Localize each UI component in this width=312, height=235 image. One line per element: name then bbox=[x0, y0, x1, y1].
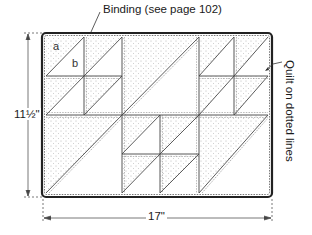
piece-label-b: b bbox=[72, 57, 78, 69]
binding-leader bbox=[91, 12, 100, 32]
height-label: 11½" bbox=[13, 108, 41, 120]
quilt-instruction-label: Quilt on dotted lines bbox=[284, 60, 296, 162]
binding-label: Binding (see page 102) bbox=[103, 3, 222, 15]
quilt-diagram: a b bbox=[0, 0, 312, 235]
piece-label-a: a bbox=[53, 40, 60, 52]
quilt-top: a b bbox=[46, 37, 268, 193]
width-label: 17" bbox=[146, 210, 167, 222]
